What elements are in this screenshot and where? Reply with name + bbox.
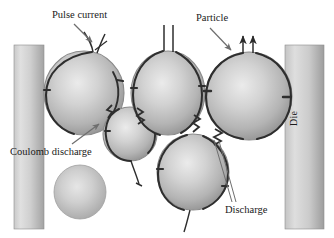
label-pulse-current: Pulse current bbox=[52, 10, 107, 21]
particle-isolated bbox=[54, 165, 106, 219]
figure-spark-plasma-sintering: Pulse current Particle Coulomb discharge… bbox=[0, 0, 334, 238]
diagram-canvas bbox=[0, 0, 334, 238]
left-die bbox=[14, 45, 44, 229]
right-die bbox=[285, 45, 324, 229]
label-discharge: Discharge bbox=[225, 205, 267, 216]
lead-tail-bottom bbox=[184, 210, 190, 232]
particle-arrow bbox=[210, 28, 231, 50]
label-particle: Particle bbox=[196, 13, 228, 24]
particle-bottom-center bbox=[157, 134, 229, 210]
lead-vertical-pair bbox=[164, 25, 173, 52]
lead-pulse-current bbox=[84, 32, 107, 53]
label-coulomb-discharge: Coulomb discharge bbox=[10, 147, 92, 158]
lead-tail-small bbox=[131, 161, 142, 186]
lead-arrow-pair bbox=[243, 36, 253, 53]
label-die: Die bbox=[289, 111, 299, 126]
particle-top-right bbox=[204, 52, 292, 140]
pulse-current-arrow bbox=[74, 24, 92, 42]
